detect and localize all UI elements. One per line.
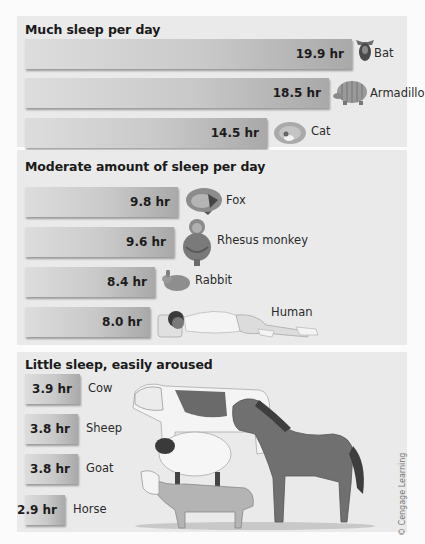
animal-label: Rhesus monkey [217,233,308,247]
bat-icon [354,36,376,66]
bar-horse: 2.9 hr [25,495,65,525]
section-title: Much sleep per day [25,22,160,37]
animal-label: Fox [226,193,246,207]
bar-value: 19.9 hr [296,47,344,61]
animal-label: Human [271,305,312,319]
cat-icon [272,120,308,146]
bar-armadillo: 18.5 hr [25,78,329,108]
section-title: Moderate amount of sleep per day [25,159,265,174]
fox-icon [184,186,224,216]
bar-fox: 9.8 hr [25,187,178,217]
animal-label: Cat [311,124,331,138]
animal-label: Bat [374,46,393,60]
animal-label: Rabbit [195,273,232,287]
rhesus-monkey-icon [180,217,214,267]
bar-bat: 19.9 hr [25,39,352,69]
bar-value: 8.0 hr [102,315,142,329]
bar-value: 3.8 hr [30,462,70,476]
rabbit-icon [161,270,191,292]
section-title: Little sleep, easily aroused [25,357,213,372]
bar-value: 3.8 hr [30,422,70,436]
armadillo-icon [333,78,369,106]
bar-value: 9.8 hr [130,195,170,209]
bar-value: 14.5 hr [211,126,259,140]
animal-label: Goat [86,461,114,475]
bar-value: 3.9 hr [32,382,72,396]
bar-rabbit: 8.4 hr [25,267,155,297]
bar-value: 9.6 hr [126,235,166,249]
animal-label: Sheep [86,421,122,435]
section-much-sleep: Much sleep per day 19.9 hr Bat 18.5 hr A… [17,16,407,147]
animal-label: Armadillo [370,86,425,100]
section-moderate-sleep: Moderate amount of sleep per day 9.8 hr … [17,150,407,345]
section-little-sleep: Little sleep, easily aroused 3.9 hr Cow … [17,352,407,532]
bar-goat: 3.8 hr [25,454,78,484]
bar-rhesus-monkey: 9.6 hr [25,227,174,257]
copyright-credit: © Cengage Learning [398,453,407,536]
bar-value: 2.9 hr [17,503,57,517]
bar-value: 18.5 hr [273,86,321,100]
bar-cow: 3.9 hr [25,374,80,404]
bar-value: 8.4 hr [107,275,147,289]
animal-label: Cow [88,381,112,395]
farm-animals-illustration [115,372,375,532]
bar-sheep: 3.8 hr [25,414,78,444]
animal-label: Horse [73,502,106,516]
bar-cat: 14.5 hr [25,118,267,148]
bar-human: 8.0 hr [25,307,150,337]
